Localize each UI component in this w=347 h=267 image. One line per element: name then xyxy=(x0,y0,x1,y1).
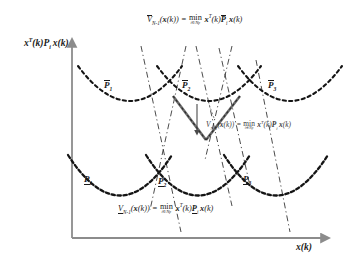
guide-line-2 xyxy=(150,46,186,210)
curve-lower-p3 xyxy=(224,155,328,196)
figure-canvas: xT(k)Pi x(k) x(k) VN-1(x(k)) = mini∈Np x… xyxy=(0,0,347,267)
curve-label-lower-p1: P1 xyxy=(84,175,92,186)
curve-label-upper-p3: P3 xyxy=(268,80,276,92)
curve-label-upper-p2: P2 xyxy=(182,80,190,92)
upper-bound-equation: VN-1(x(k)) = mini∈Np xT(k)Pi x(k) xyxy=(147,14,242,26)
envelope-left-branch xyxy=(173,96,206,140)
value-function-envelope xyxy=(173,96,240,140)
curve-label-lower-p2: P2 xyxy=(158,177,166,188)
curve-upper-p3 xyxy=(238,66,342,101)
lower-bound-curves xyxy=(68,155,328,196)
value-function-envelope-overlay xyxy=(173,96,240,140)
x-axis-label: x(k) xyxy=(296,243,312,253)
curve-label-upper-p1: P1 xyxy=(104,80,112,92)
value-function-equation: VN-1(x(k)) = mini∈Np xT(k)Pi x(k) xyxy=(206,120,291,131)
lower-bound-equation: VN-1(x(k)) = mini∈Np xT(k)Pi x(k) xyxy=(118,203,213,215)
y-axis-label: xT(k)Pi x(k) xyxy=(24,38,69,51)
upper-bound-curves xyxy=(78,66,342,101)
curve-upper-p2 xyxy=(157,66,261,101)
curve-label-lower-p3: P3 xyxy=(243,175,251,186)
curve-upper-p1 xyxy=(78,66,182,101)
